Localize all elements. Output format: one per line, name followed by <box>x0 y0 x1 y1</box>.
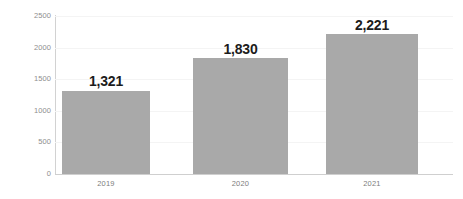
bar-2021[interactable] <box>326 34 418 174</box>
y-axis-tick-label: 1500 <box>5 75 51 83</box>
bar-2019[interactable] <box>62 91 150 174</box>
x-axis-tick-label-2021: 2021 <box>326 180 418 188</box>
bar-value-label-2019: 1,321 <box>62 74 150 88</box>
y-axis-tick-label: 2500 <box>5 12 51 20</box>
y-axis-tick-label: 500 <box>5 139 51 147</box>
y-axis-tick-label: 2000 <box>5 44 51 52</box>
y-axis-tick-label: 0 <box>5 170 51 178</box>
gridline <box>55 16 453 17</box>
plot-area <box>55 16 453 174</box>
bar-value-label-2020: 1,830 <box>193 42 288 56</box>
x-axis-tick-label-2020: 2020 <box>193 180 288 188</box>
y-axis-tick-label: 1000 <box>5 107 51 115</box>
bar-value-label-2021: 2,221 <box>326 18 418 32</box>
x-axis-line <box>55 174 453 175</box>
bar-2020[interactable] <box>193 58 288 174</box>
bar-chart: 2500 2000 1500 1000 500 0 1,321 1,830 2,… <box>0 0 463 199</box>
x-axis-tick-label-2019: 2019 <box>62 180 150 188</box>
y-axis-tick-labels: 2500 2000 1500 1000 500 0 <box>0 0 51 199</box>
